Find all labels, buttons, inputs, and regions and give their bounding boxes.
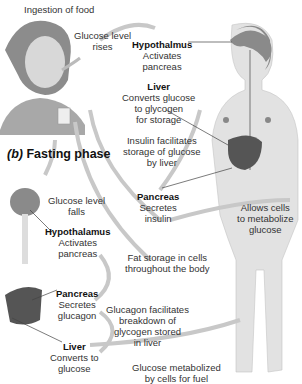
label-insulin-note: Insulin facilitates storage of glucose b…	[123, 135, 201, 168]
label-liver-fasting: Liver Converts to glucose	[50, 341, 99, 374]
label-liver-fed: Liver Converts glucose to glycogen for s…	[122, 81, 195, 125]
caption-ingestion: Ingestion of food	[24, 4, 94, 15]
label-glucose-rises: Glucose level rises	[74, 30, 131, 52]
label-cells-metabolize: Allows cells to metabolize glucose	[237, 202, 294, 235]
label-glucagon-note: Glucagon facilitates breakdown of glycog…	[106, 304, 189, 348]
label-pancreas-fed: Pancreas Secretes insulin	[137, 191, 179, 224]
label-pancreas-fasting: Pancreas Secretes glucagon	[56, 288, 98, 321]
label-hypothalamus-fasting: Hypothalamus Activates pancreas	[45, 226, 110, 259]
woman-eating-illustration	[0, 21, 85, 135]
brain-liver-illustration	[5, 188, 42, 325]
heading-fasting-phase: (b) Fasting phase	[7, 147, 111, 161]
label-glucose-falls: Glucose level falls	[48, 195, 105, 217]
label-glucose-metabolized: Glucose metabolized by cells for fuel	[132, 362, 221, 384]
label-hypothalmus-fed: Hypothalmus Activates pancreas	[132, 39, 192, 72]
human-body-illustration	[212, 23, 298, 372]
label-fat-storage: Fat storage in cells throughout the body	[125, 252, 210, 274]
